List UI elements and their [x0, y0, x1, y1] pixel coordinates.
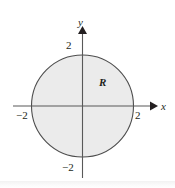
y-axis-tick-label-negative-2: −2	[62, 162, 74, 173]
x-axis-arrowhead-icon	[150, 102, 158, 111]
figure-container: y x 2 −2 2 −2 R	[0, 0, 175, 188]
y-axis-label: y	[78, 17, 83, 28]
x-axis-tick-label-negative-2: −2	[16, 110, 28, 121]
page-edge-shadow	[0, 181, 175, 188]
region-label-R: R	[99, 77, 106, 88]
y-axis-tick-label-positive-2: 2	[66, 40, 72, 51]
x-axis-label: x	[161, 101, 166, 112]
x-axis-tick-label-positive-2: 2	[135, 110, 141, 121]
coordinate-plane-diagram	[0, 0, 175, 188]
